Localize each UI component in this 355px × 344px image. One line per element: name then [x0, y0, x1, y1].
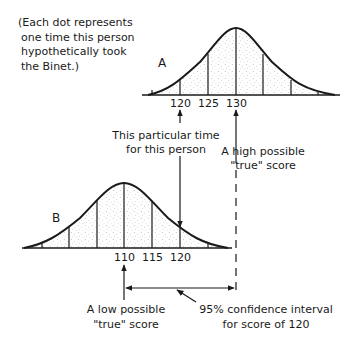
curve-b-label: B — [52, 212, 60, 225]
confidence-interval-label: 95% confidence interval for score of 120 — [196, 302, 336, 332]
high-true-score-label: A high possible "true" score — [208, 145, 318, 173]
interval-pointer — [177, 290, 196, 302]
tick-a-125: 125 — [198, 97, 219, 110]
tick-a-130: 130 — [226, 97, 247, 110]
tick-b-115: 115 — [142, 251, 163, 264]
tick-b-120: 120 — [170, 251, 191, 264]
tick-b-110: 110 — [114, 251, 135, 264]
low-true-score-label: A low possible "true" score — [76, 302, 176, 332]
curve-a-label: A — [158, 57, 166, 70]
curve-a-fill — [148, 28, 335, 95]
dot-explanation-note: (Each dot represents one time this perso… — [18, 16, 135, 74]
tick-a-120: 120 — [170, 97, 191, 110]
distribution-a — [142, 28, 340, 95]
